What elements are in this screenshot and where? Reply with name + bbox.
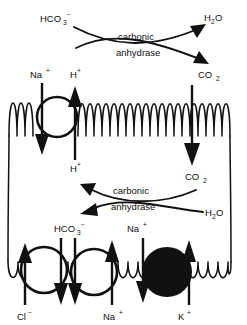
sodium-pump-efflux-head (136, 281, 150, 303)
luminal-bicarbonate-subscript: 3 (63, 19, 67, 26)
water-cell-text: H (205, 207, 212, 218)
cell-right-border (230, 136, 231, 262)
label-proton-cell: H + (70, 161, 81, 174)
label-sodium-blood: Na + (103, 309, 123, 322)
intracellular-enzyme-line2: anhydrase (111, 201, 155, 212)
sodium-potassium-atpase-pump[interactable] (143, 248, 191, 296)
renal-tubule-cell-diagram: HCO 3 − H 2 O carbonic anhydrase CO 2 Na… (0, 0, 247, 325)
luminal-bicarbonate-text: HCO (40, 13, 61, 24)
intracellular-enzyme-line1: carbonic (113, 185, 149, 196)
sodium-potassium-pump-circle[interactable] (143, 248, 191, 296)
co2-lumen-text: CO (198, 69, 212, 80)
co2-lumen-subscript: 2 (216, 75, 220, 82)
bicarbonate-cell-text: HCO (54, 223, 75, 234)
proton-efflux-head (68, 86, 82, 107)
apical-enzyme-line1: carbonic (118, 31, 154, 42)
label-potassium-blood: K + (178, 309, 191, 322)
apical-enzyme-line2: anhydrase (116, 47, 160, 58)
sodium-blood-charge: + (119, 309, 123, 316)
luminal-bicarbonate-charge: − (67, 11, 71, 18)
proton-cell-charge: + (77, 161, 81, 168)
co2-influx-head (184, 143, 200, 166)
cell-left-border (8, 136, 9, 260)
proton-lumen-charge: + (77, 67, 81, 74)
label-proton-lumen: H + (70, 67, 81, 80)
co2-cell-text: CO (185, 171, 199, 182)
co2-cell-subscript: 2 (203, 177, 207, 184)
potassium-pump-influx-head (182, 240, 196, 262)
arrow-head-to-bicarbonate (80, 203, 98, 216)
bicarbonate-efflux-head-1 (54, 283, 68, 305)
arrow-head-to-proton (80, 183, 96, 196)
proton-lumen-text: H (70, 69, 77, 80)
chloride-blood-text: Cl (17, 311, 26, 322)
sodium-blood-text: Na (103, 311, 116, 322)
potassium-blood-text: K (178, 311, 185, 322)
apical-carbonic-anhydrase-reaction (74, 24, 209, 64)
label-bicarbonate-cell: HCO 3 − (54, 221, 85, 236)
water-top-oxygen: O (215, 12, 222, 23)
label-sodium-cell: Na + (127, 221, 147, 234)
sodium-lumen-text: Na (30, 69, 43, 80)
sodium-cotransport-head (105, 240, 119, 262)
label-co2-cell: CO 2 (185, 171, 207, 184)
label-chloride-blood: Cl − (17, 309, 32, 322)
sodium-lumen-charge: + (46, 67, 50, 74)
apical-microvilli-right (78, 104, 230, 136)
potassium-blood-charge: + (187, 309, 191, 316)
label-water-cell: H 2 O (205, 207, 223, 220)
water-top-text: H (204, 12, 211, 23)
sodium-cell-charge: + (143, 221, 147, 228)
diagram-canvas: HCO 3 − H 2 O carbonic anhydrase CO 2 Na… (0, 0, 247, 325)
bicarbonate-cell-subscript: 3 (77, 229, 81, 236)
bicarbonate-cell-charge: − (81, 221, 85, 228)
apical-microvilli-left (9, 103, 33, 136)
label-luminal-bicarbonate: HCO 3 − (40, 11, 71, 26)
proton-cell-text: H (70, 163, 77, 174)
label-water-top: H 2 O (204, 12, 222, 25)
label-co2-lumen: CO 2 (198, 69, 220, 82)
water-cell-oxygen: O (216, 207, 223, 218)
sodium-cell-text: Na (127, 223, 140, 234)
bicarbonate-efflux-head-2 (68, 283, 82, 305)
label-sodium-lumen: Na + (30, 67, 50, 80)
sodium-influx-head (35, 134, 49, 155)
chloride-blood-charge: − (28, 309, 32, 316)
